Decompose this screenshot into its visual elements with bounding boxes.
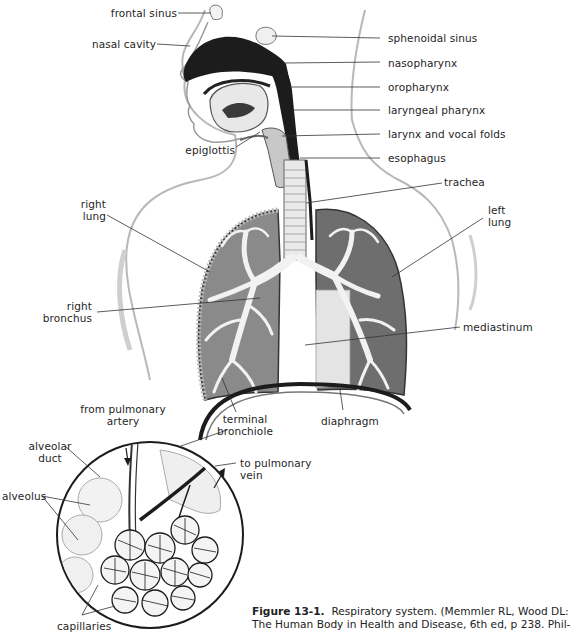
mediastinum-shape	[282, 273, 310, 390]
label-from-pulmonary-artery-line2: artery	[80, 415, 166, 427]
caption-line-2: The Human Body in Health and Disease, 6t…	[252, 618, 572, 631]
label-nasal-cavity: nasal cavity	[70, 38, 156, 50]
caption-figure-number: Figure 13-1.	[252, 605, 325, 617]
label-trachea: trachea	[444, 176, 485, 188]
label-left-lung-line2: lung	[488, 216, 511, 228]
label-terminal-bronchiole-line1: terminal	[215, 413, 275, 425]
label-right-bronchus-line1: right	[40, 300, 92, 312]
label-esophagus: esophagus	[388, 152, 446, 164]
label-oropharynx: oropharynx	[388, 81, 449, 93]
label-mediastinum: mediastinum	[463, 321, 533, 333]
label-epiglottis: epiglottis	[160, 144, 235, 156]
label-from-pulmonary-artery: from pulmonary artery	[80, 403, 166, 427]
label-right-bronchus: right bronchus	[40, 300, 92, 324]
caption-line-1: Figure 13-1. Respiratory system. (Memmle…	[252, 605, 572, 618]
label-frontal-sinus: frontal sinus	[95, 7, 177, 19]
label-left-lung: left lung	[488, 204, 511, 228]
label-diaphragm: diaphragm	[321, 415, 379, 427]
label-capillaries: capillaries	[57, 620, 111, 632]
label-right-lung-line2: lung	[70, 210, 106, 222]
trachea-shape	[284, 160, 312, 260]
label-from-pulmonary-artery-line1: from pulmonary	[80, 403, 166, 415]
label-larynx-vocal-folds: larynx and vocal folds	[388, 128, 506, 140]
label-to-pulmonary-vein: to pulmonary vein	[240, 457, 312, 481]
label-terminal-bronchiole-line2: bronchiole	[215, 425, 275, 437]
label-alveolus: alveolus	[2, 490, 46, 502]
label-right-lung: right lung	[70, 198, 106, 222]
label-right-bronchus-line2: bronchus	[40, 312, 92, 324]
label-sphenoidal-sinus: sphenoidal sinus	[388, 32, 477, 44]
label-nasopharynx: nasopharynx	[388, 57, 457, 69]
label-right-lung-line1: right	[70, 198, 106, 210]
alveoli-inset	[57, 442, 243, 628]
label-alveolar-duct-line2: duct	[25, 452, 75, 464]
figure-caption: Figure 13-1. Respiratory system. (Memmle…	[252, 605, 572, 631]
right-lung-shape	[198, 210, 280, 400]
label-laryngeal-pharynx: laryngeal pharynx	[388, 104, 485, 116]
frontal-sinus-shape	[210, 5, 223, 20]
label-alveolar-duct-line1: alveolar	[25, 440, 75, 452]
label-alveolar-duct: alveolar duct	[25, 440, 75, 464]
label-terminal-bronchiole: terminal bronchiole	[215, 413, 275, 437]
caption-line-1-text: Respiratory system. (Memmler RL, Wood DL…	[331, 605, 568, 617]
label-to-pulmonary-vein-line1: to pulmonary	[240, 457, 312, 469]
label-left-lung-line1: left	[488, 204, 511, 216]
label-to-pulmonary-vein-line2: vein	[240, 469, 312, 481]
